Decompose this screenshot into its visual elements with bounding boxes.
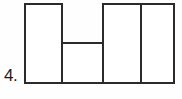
rect-3-right-tall-face (103, 4, 141, 83)
rect-1-left-tall-face (25, 4, 62, 83)
figure-number-label: 4. (4, 66, 17, 85)
rect-4-far-right-tall-face (141, 4, 174, 83)
figure-container: 4. (0, 0, 182, 99)
rect-2-center-short-face (62, 43, 103, 83)
composite-rectangle-figure (0, 0, 182, 99)
